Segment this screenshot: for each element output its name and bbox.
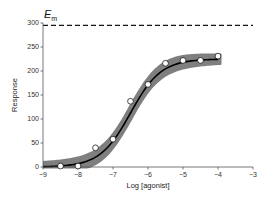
curve-line — [43, 59, 218, 166]
fitted-curve — [43, 59, 218, 166]
x-tick-label: −8 — [74, 171, 82, 178]
x-axis-title: Log [agonist] — [127, 181, 170, 190]
data-point — [180, 58, 186, 64]
y-tick-label: 250 — [27, 43, 39, 50]
x-tick-label: −4 — [214, 171, 222, 178]
x-tick-label: −3 — [249, 171, 257, 178]
data-point — [215, 53, 221, 59]
y-tick-label: 150 — [27, 91, 39, 98]
data-point — [75, 163, 81, 169]
x-tick-label: −5 — [179, 171, 187, 178]
x-tick-label: −9 — [39, 171, 47, 178]
data-point — [145, 82, 151, 88]
data-point — [163, 60, 169, 66]
y-tick-label: 50 — [31, 139, 39, 146]
data-point — [128, 98, 134, 104]
y-tick-label: 0 — [35, 163, 39, 170]
data-point — [198, 58, 204, 64]
data-point — [93, 145, 99, 151]
y-tick-label: 100 — [27, 115, 39, 122]
y-tick-label: 300 — [27, 19, 39, 26]
x-tick-label: −7 — [109, 171, 117, 178]
y-axis-title: Response — [10, 78, 19, 112]
y-tick-label: 200 — [27, 67, 39, 74]
data-point — [58, 163, 64, 169]
em-label: Em — [44, 8, 57, 22]
concentration-response-chart: 050100150200250300−9−8−7−6−5−4−3 Em Resp… — [0, 0, 269, 202]
x-tick-label: −6 — [144, 171, 152, 178]
data-points — [58, 53, 221, 169]
data-point — [110, 136, 116, 142]
